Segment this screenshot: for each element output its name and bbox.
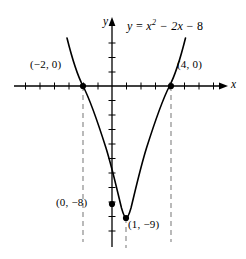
point-x-intercept-right bbox=[168, 83, 174, 89]
equation-lhs: y bbox=[127, 19, 133, 33]
y-axis-arrowhead bbox=[109, 17, 116, 26]
y-axis bbox=[109, 17, 116, 247]
parabola-curve bbox=[67, 38, 186, 218]
x-axis-arrowhead bbox=[219, 83, 228, 90]
graph-figure: y = x2 − 2x − 8 (−2, 0) (4, 0) (0, −8) (… bbox=[0, 0, 246, 259]
label-x-intercept-right: (4, 0) bbox=[177, 58, 202, 70]
label-vertex: (1, −9) bbox=[128, 218, 159, 230]
x-axis bbox=[14, 83, 228, 90]
equation-label: y = x2 − 2x − 8 bbox=[127, 19, 203, 34]
plot-canvas bbox=[0, 0, 246, 259]
point-x-intercept-left bbox=[80, 83, 86, 89]
equation-term3: − 8 bbox=[187, 19, 204, 33]
point-y-intercept bbox=[109, 201, 115, 207]
y-axis-label: y bbox=[103, 15, 108, 27]
label-y-intercept: (0, −8) bbox=[56, 196, 87, 208]
marked-points bbox=[80, 83, 174, 221]
equation-exponent: 2 bbox=[152, 18, 156, 27]
equation-equals: = bbox=[136, 19, 143, 33]
label-x-intercept-left: (−2, 0) bbox=[30, 58, 61, 70]
equation-term2: − 2x bbox=[160, 19, 184, 33]
x-axis-label: x bbox=[231, 78, 236, 90]
